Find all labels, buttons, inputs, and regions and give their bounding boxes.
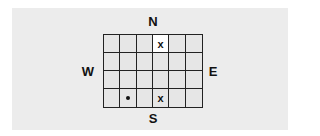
grid-cell: [186, 35, 202, 53]
grid-cell: [104, 89, 120, 107]
grid-cell: [137, 53, 153, 71]
grid-cell: [153, 53, 169, 71]
north-label: N: [145, 15, 161, 28]
west-label: W: [80, 65, 96, 78]
grid-cell: [169, 35, 185, 53]
grid-cell: [186, 53, 202, 71]
grid-cell: [137, 35, 153, 53]
grid-cell: [186, 89, 202, 107]
grid-cell: x: [153, 35, 169, 53]
x-mark: x: [158, 38, 164, 50]
south-label: S: [145, 112, 161, 125]
grid-cell: [186, 71, 202, 89]
east-label: E: [205, 65, 221, 78]
grid-cell: [120, 71, 136, 89]
grid-cell: [137, 71, 153, 89]
grid-cell: [120, 53, 136, 71]
grid-cell: [169, 89, 185, 107]
grid-cell: [120, 89, 136, 107]
grid-cell: [104, 53, 120, 71]
grid-cell: [169, 71, 185, 89]
grid-cell: [137, 89, 153, 107]
grid: xx: [103, 34, 203, 108]
grid-cell: [104, 71, 120, 89]
dot-icon: [126, 96, 130, 100]
grid-cell: [120, 35, 136, 53]
x-mark: x: [158, 92, 164, 104]
grid-cell: x: [153, 89, 169, 107]
grid-cell: [104, 35, 120, 53]
grid-cell: [169, 53, 185, 71]
grid-cell: [153, 71, 169, 89]
